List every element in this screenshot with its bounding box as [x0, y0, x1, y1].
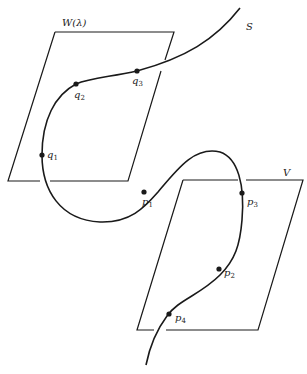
label-p4: p4	[175, 312, 186, 325]
point-q2	[73, 81, 78, 86]
label-p3: p3	[247, 196, 258, 209]
label-q1: q1	[47, 149, 58, 162]
point-q1	[39, 152, 44, 157]
point-p4	[166, 311, 171, 316]
points	[39, 68, 244, 316]
plane-w-label: W(λ)	[62, 17, 87, 28]
label-q2: q2	[74, 89, 85, 102]
point-q3	[134, 68, 139, 73]
label-p2: p2	[224, 267, 235, 280]
point-p2	[216, 266, 221, 271]
plane-w	[8, 32, 174, 181]
point-p1	[141, 189, 146, 194]
point-p3	[239, 190, 244, 195]
diagram-canvas: W(λ) V S q1 q2 q3 p1 p3 p2 p4	[0, 0, 307, 374]
label-q3: q3	[132, 75, 143, 88]
curve-s-label: S	[246, 21, 253, 32]
plane-v	[137, 180, 303, 330]
plane-v-label: V	[283, 167, 292, 178]
